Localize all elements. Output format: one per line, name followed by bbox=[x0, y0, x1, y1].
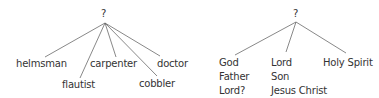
term-god: God bbox=[219, 56, 249, 70]
edge-holy-spirit bbox=[296, 22, 346, 53]
leaf-group-father: God Father Lord? bbox=[219, 56, 249, 98]
edge-helmsman bbox=[45, 23, 105, 57]
leaf-flautist: flautist bbox=[62, 79, 95, 91]
term-holy-spirit: Holy Spirit bbox=[323, 56, 373, 70]
leaf-doctor: doctor bbox=[157, 58, 188, 70]
leaf-carpenter: carpenter bbox=[90, 58, 137, 70]
leaf-cobbler: cobbler bbox=[139, 78, 175, 90]
leaf-helmsman: helmsman bbox=[16, 58, 67, 70]
leaf-group-holy-spirit: Holy Spirit bbox=[323, 56, 373, 70]
root-node-left: ? bbox=[101, 8, 106, 20]
term-jesus-christ: Jesus Christ bbox=[271, 84, 327, 98]
term-father: Father bbox=[219, 70, 249, 84]
term-lord-question: Lord? bbox=[219, 84, 249, 98]
leaf-group-son: Lord Son Jesus Christ bbox=[271, 56, 327, 98]
term-lord: Lord bbox=[271, 56, 327, 70]
root-node-right: ? bbox=[293, 8, 298, 20]
term-son: Son bbox=[271, 70, 327, 84]
